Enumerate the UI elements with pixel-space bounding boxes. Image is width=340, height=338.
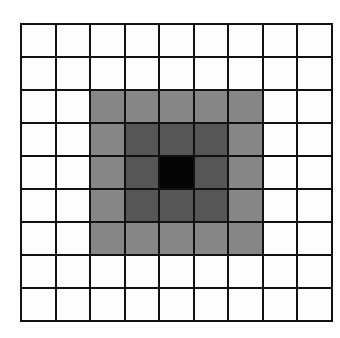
grid-cell [22, 91, 55, 122]
grid-cell [160, 91, 193, 122]
grid-cell [22, 223, 55, 254]
grid-cell [57, 58, 90, 89]
grid-cell [126, 223, 159, 254]
grid-cell [229, 157, 262, 188]
grid-cell [229, 289, 262, 320]
grid-cell [160, 25, 193, 56]
grid-cell [195, 157, 228, 188]
grid-cell [298, 91, 331, 122]
grid-cell [91, 190, 124, 221]
grid-cell [22, 289, 55, 320]
grid-cell [91, 289, 124, 320]
grid-cell [91, 25, 124, 56]
grid-cell [160, 223, 193, 254]
grid-cell [229, 124, 262, 155]
grid-cell [57, 91, 90, 122]
grid-cell [91, 256, 124, 287]
grid-cell [264, 256, 297, 287]
grid-cell [195, 256, 228, 287]
grid-cell [91, 124, 124, 155]
grid-cell [298, 289, 331, 320]
grid-cell [126, 289, 159, 320]
grid-cell [264, 58, 297, 89]
grid-cell [22, 256, 55, 287]
grid-cell [57, 223, 90, 254]
grid-cell [264, 91, 297, 122]
grid-cell [57, 124, 90, 155]
grid-cell [229, 25, 262, 56]
grid-cell [298, 223, 331, 254]
grid-cell [229, 223, 262, 254]
grid-cell [264, 124, 297, 155]
grid-cell [126, 256, 159, 287]
grid-cell [264, 190, 297, 221]
grid-cell [22, 190, 55, 221]
grid-cell [229, 190, 262, 221]
grid-cell [160, 289, 193, 320]
grid-cell [298, 190, 331, 221]
grid-cell [57, 190, 90, 221]
grid-cell [57, 289, 90, 320]
grid-cell [126, 157, 159, 188]
grid-cell [91, 91, 124, 122]
grid-cell [298, 256, 331, 287]
grid-cell [126, 25, 159, 56]
grid-cell [195, 25, 228, 56]
grid-cell [22, 157, 55, 188]
grid-cell [264, 223, 297, 254]
grid-cell [195, 124, 228, 155]
grid-cell [298, 25, 331, 56]
grid-cell [160, 157, 193, 188]
grid-cell [126, 91, 159, 122]
grid-cell [195, 91, 228, 122]
grid-cell [126, 58, 159, 89]
grid-cell [160, 58, 193, 89]
grid-cell [57, 157, 90, 188]
grid-cell [195, 223, 228, 254]
grid-cell [298, 157, 331, 188]
grid-cell [126, 190, 159, 221]
grid-cell [160, 190, 193, 221]
grid-cell [264, 289, 297, 320]
grid-cell [91, 223, 124, 254]
grid-cell [195, 190, 228, 221]
grid-cell [229, 91, 262, 122]
grid-cell [298, 124, 331, 155]
grid-cell [229, 58, 262, 89]
grid-cell [264, 157, 297, 188]
grid-cell [22, 124, 55, 155]
grid-cell [91, 157, 124, 188]
grid-cell [160, 256, 193, 287]
grid-cell [298, 58, 331, 89]
kernel-grid [20, 23, 333, 322]
grid-cell [160, 124, 193, 155]
grid-cell [264, 25, 297, 56]
grid-cell [22, 25, 55, 56]
grid-cell [91, 58, 124, 89]
grid-cell [195, 289, 228, 320]
grid-cell [57, 256, 90, 287]
grid-cell [229, 256, 262, 287]
grid-cell [22, 58, 55, 89]
grid-cell [57, 25, 90, 56]
grid-cell [126, 124, 159, 155]
grid-cell [195, 58, 228, 89]
